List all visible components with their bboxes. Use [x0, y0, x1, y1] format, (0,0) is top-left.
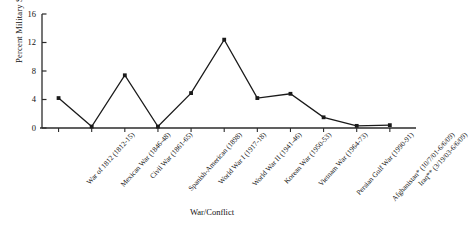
y-axis-tick-labels: 0481216 — [18, 14, 36, 128]
y-tick-label: 8 — [20, 67, 36, 76]
x-axis-tick-labels: War of 1812 (1812-15)Mexican War (1846-4… — [40, 131, 416, 203]
y-tick-label: 0 — [20, 124, 36, 133]
x-tick-label-text: Civil War (1861-65) — [148, 131, 194, 180]
chart-svg — [40, 14, 416, 128]
y-tick-label: 12 — [20, 38, 36, 47]
y-tick-label: 16 — [20, 10, 36, 19]
axis-lines — [40, 14, 416, 128]
plot-area — [40, 14, 416, 128]
y-axis-ticks — [42, 14, 47, 128]
data-point-markers — [57, 38, 392, 129]
x-tick-label: Civil War (1861-65) — [148, 131, 194, 180]
y-tick-label: 4 — [20, 95, 36, 104]
data-series-line — [59, 40, 390, 127]
x-axis-title: War/Conflict — [0, 207, 424, 217]
